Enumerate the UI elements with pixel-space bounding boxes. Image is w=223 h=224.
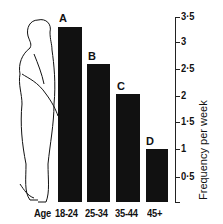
y-axis: [175, 17, 176, 203]
y-tick-label: 1: [181, 142, 186, 154]
y-tick-label: 0·5: [181, 170, 195, 182]
y-tick-label: 2·5: [181, 62, 195, 74]
category-18-24: 18-24: [55, 207, 78, 219]
x-axis-label: Age: [34, 207, 51, 219]
y-tick: [175, 177, 180, 178]
y-tick-label: 2: [181, 89, 186, 101]
bar-18-24: [58, 27, 82, 202]
category-45-plus: 45+: [147, 207, 162, 219]
bar-label-d: D: [146, 135, 154, 147]
y-tick: [175, 122, 180, 123]
couple-illustration-icon: [8, 14, 60, 206]
y-tick-label: 3: [181, 35, 186, 47]
y-tick: [175, 96, 180, 97]
y-tick: [175, 202, 180, 203]
bar-35-44: [116, 94, 140, 202]
chart: A B C D Age 18-24 25-34 35-44 45+ 0·5 1 …: [0, 0, 223, 224]
bar-label-b: B: [88, 50, 96, 62]
y-axis-label: Frequency per week: [197, 100, 209, 200]
bar-45-plus: [146, 149, 168, 202]
bar-label-a: A: [59, 12, 67, 24]
y-tick: [175, 149, 180, 150]
y-tick: [175, 17, 180, 18]
category-35-44: 35-44: [115, 207, 138, 219]
category-25-34: 25-34: [85, 207, 108, 219]
y-tick: [175, 42, 180, 43]
y-tick-label: 1·5: [181, 115, 195, 127]
bar-label-c: C: [117, 80, 125, 92]
y-tick: [175, 69, 180, 70]
y-tick-label: 3·5: [181, 10, 195, 22]
bar-25-34: [87, 64, 110, 202]
